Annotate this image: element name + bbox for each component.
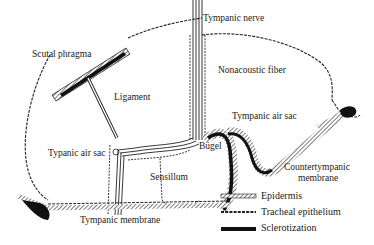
legend-label-epidermis: Epidermis	[261, 190, 302, 201]
label-countertympanic-line2: membrane	[298, 173, 338, 183]
label-nonacoustic-fiber: Nonacoustic fiber	[218, 65, 287, 75]
legend-label-sclerotization: Sclerotization	[261, 222, 317, 233]
tympanal-organ-diagram: Tympanic nerve Scutal phragma Nonacousti…	[0, 0, 374, 245]
legend-item-tracheal-epithelium: Tracheal epithelium	[221, 206, 341, 217]
label-typanic-air-sac-left: Typanic air sac	[48, 148, 105, 158]
sclerotization-swatch-icon	[221, 227, 256, 231]
label-tympanic-nerve: Tympanic nerve	[203, 13, 264, 23]
legend: Epidermis Tracheal epithelium Sclerotiza…	[221, 190, 341, 233]
label-countertympanic-line1: Countertympanic	[284, 162, 350, 172]
legend-item-sclerotization: Sclerotization	[221, 222, 317, 233]
label-scutal-phragma: Scutal phragma	[32, 49, 92, 59]
label-bugel: Bügel	[199, 141, 222, 151]
label-sensillum: Sensillum	[150, 172, 189, 182]
epidermis-swatch-icon	[221, 194, 256, 198]
legend-label-tracheal-epithelium: Tracheal epithelium	[261, 206, 341, 217]
ligament-structure	[88, 78, 117, 138]
label-ligament: Ligament	[114, 92, 151, 102]
label-tympanic-membrane: Tympanic membrane	[80, 215, 160, 225]
label-tympanic-air-sac-right: Tympanic air sac	[232, 111, 297, 121]
